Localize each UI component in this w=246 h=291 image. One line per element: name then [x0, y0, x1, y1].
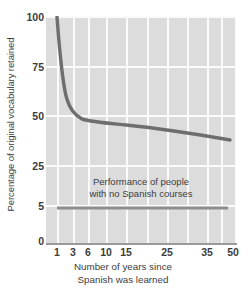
y-tick-100: 100 — [16, 12, 44, 22]
x-tick-50: 50 — [227, 246, 239, 258]
x-axis-title-line1: Number of years since — [0, 261, 246, 274]
y-tick-0: 0 — [16, 236, 44, 246]
y-tick-50: 50 — [16, 111, 44, 121]
x-axis-title: Number of years since Spanish was learne… — [0, 261, 246, 286]
x-axis-line — [46, 243, 237, 245]
baseline-annotation-line2: with no Spanish courses — [52, 188, 230, 200]
baseline-annotation: Performance of people with no Spanish co… — [52, 176, 230, 200]
x-tick-1: 1 — [54, 246, 60, 258]
x-tick-35: 35 — [201, 246, 213, 258]
x-tick-25: 25 — [161, 246, 173, 258]
y-tick-25: 25 — [16, 161, 44, 171]
x-axis-title-line2: Spanish was learned — [0, 274, 246, 287]
x-tick-3: 3 — [70, 246, 76, 258]
chart-figure: Percentage of original vocabulary retain… — [0, 0, 246, 291]
plot-area: Performance of people with no Spanish co… — [46, 16, 236, 243]
y-axis-tick-labels: 100 75 50 25 5 0 — [14, 0, 44, 248]
data-series-group — [46, 16, 236, 243]
x-tick-15: 15 — [120, 246, 132, 258]
x-tick-10: 10 — [100, 246, 112, 258]
retention-curve — [57, 17, 230, 140]
y-tick-75: 75 — [16, 62, 44, 72]
x-tick-6: 6 — [85, 246, 91, 258]
y-tick-5: 5 — [16, 201, 44, 211]
baseline-annotation-line1: Performance of people — [93, 176, 189, 187]
